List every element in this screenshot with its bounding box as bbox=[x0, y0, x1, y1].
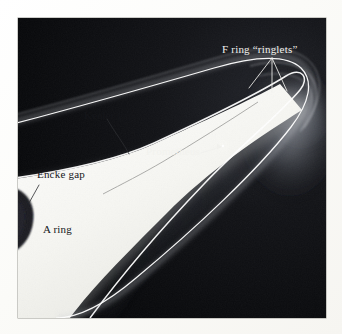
label-f-ring-ringlets: F ring “ringlets” bbox=[222, 44, 298, 55]
figure-root: F ring “ringlets” Keeler gap Prometheus … bbox=[0, 0, 342, 334]
label-prometheus: Prometheus bbox=[146, 146, 200, 157]
label-keeler-gap: Keeler gap bbox=[84, 110, 134, 121]
label-encke-gap: Encke gap bbox=[37, 169, 85, 180]
label-a-ring: A ring bbox=[43, 224, 72, 235]
saturn-rings-photograph: F ring “ringlets” Keeler gap Prometheus … bbox=[18, 18, 326, 318]
